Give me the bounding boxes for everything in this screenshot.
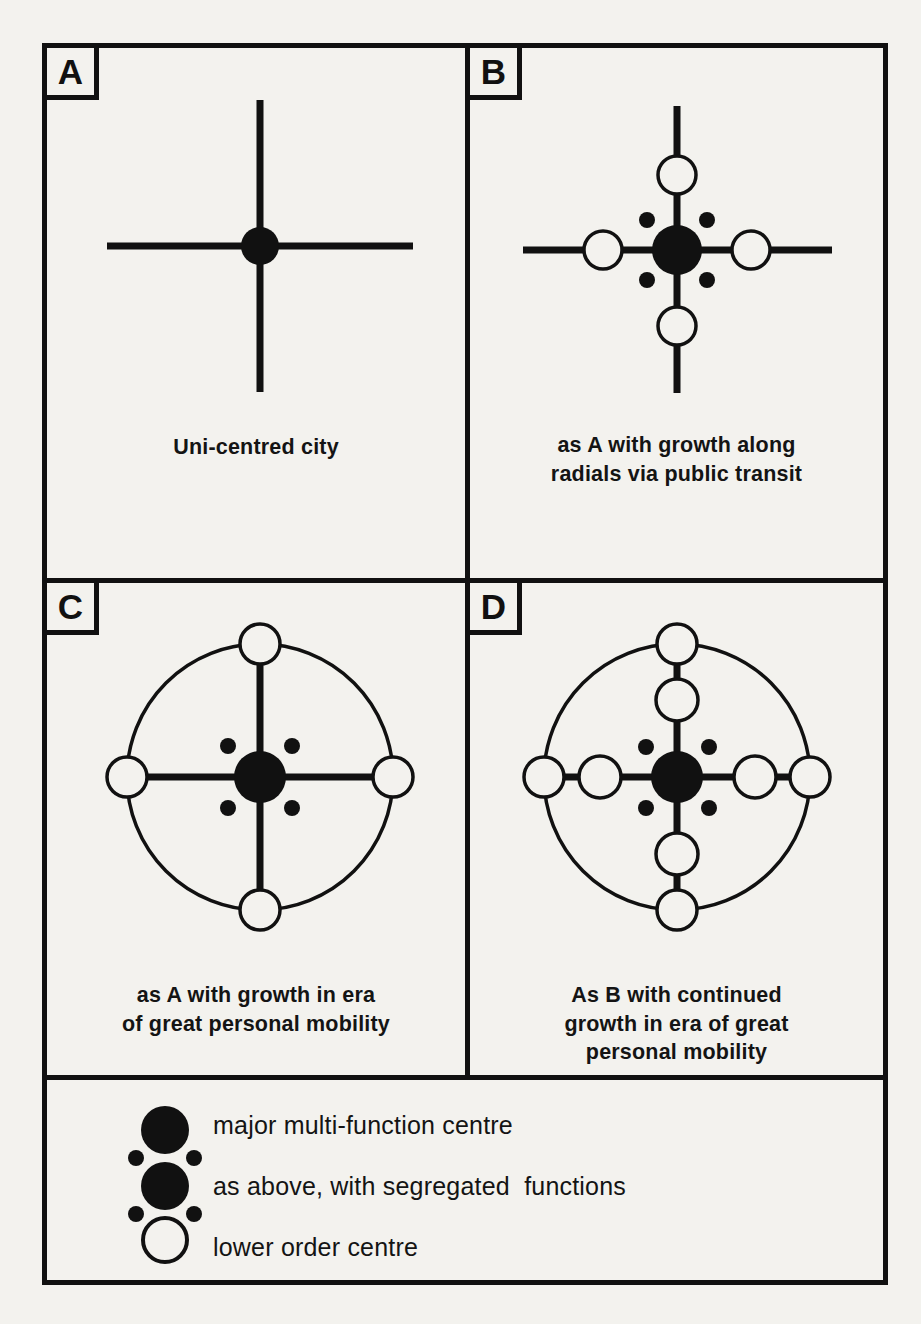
segregated-dot-nw (220, 738, 236, 754)
lower-order-centres-c (107, 624, 413, 930)
filled-large-circle-icon (117, 1094, 213, 1156)
panel-c-caption-line-1: as A with growth in era (47, 981, 465, 1010)
panel-b-caption-line-2: radials via public transit (470, 460, 883, 489)
lower-order-centre-west (584, 231, 622, 269)
segregated-function-dots-c (220, 738, 300, 816)
legend-item-lower-order-centre: lower order centre (117, 1216, 418, 1278)
lower-order-centre-inner-north (656, 679, 698, 721)
panel-b-letter: B (470, 48, 522, 100)
lower-order-centre-north (658, 156, 696, 194)
diagram-page: A Uni-centred city B (0, 0, 921, 1324)
lower-order-centre-inner-east (734, 756, 776, 798)
lower-order-centre-east (732, 231, 770, 269)
legend-label-major-centre: major multi-function centre (213, 1113, 513, 1138)
major-centre-d (651, 751, 703, 803)
lower-order-centre-ring-east (790, 757, 830, 797)
panel-d-caption-line-1: As B with continued (470, 981, 883, 1010)
radial-roads-b (523, 106, 832, 393)
panel-c-caption-line-2: of great personal mobility (47, 1010, 465, 1039)
open-circle-icon (117, 1216, 213, 1278)
legend-symbol-segregated-centre (117, 1155, 213, 1217)
segregated-dot-sw (638, 800, 654, 816)
panel-d-caption-line-3: personal mobility (470, 1038, 883, 1067)
lower-order-centre-ring-north (657, 624, 697, 664)
panel-b-caption: as A with growth along radials via publi… (470, 431, 883, 488)
panel-d-letter: D (470, 583, 522, 635)
lower-order-centre-ring-west (524, 757, 564, 797)
major-centre-b (652, 225, 702, 275)
lower-order-centre-east (373, 757, 413, 797)
panel-c-letter: C (47, 583, 99, 635)
lower-order-centre-ring-south (657, 890, 697, 930)
legend-symbol-lower-order-centre (117, 1216, 213, 1278)
lower-order-centre-west (107, 757, 147, 797)
legend-label-segregated-centre: as above, with segregated functions (213, 1174, 626, 1199)
panel-d-caption-line-2: growth in era of great (470, 1010, 883, 1039)
panel-d-caption: As B with continued growth in era of gre… (470, 981, 883, 1067)
major-centre-c (234, 751, 286, 803)
segregated-dot-ne (284, 738, 300, 754)
panel-c: C (47, 583, 465, 1075)
legend: major multi-function centre as above, wi… (47, 1080, 883, 1280)
legend-symbol-major-centre (117, 1094, 213, 1156)
panel-b-figure (470, 48, 883, 578)
radial-roads-d (523, 628, 830, 925)
panel-c-caption: as A with growth in era of great persona… (47, 981, 465, 1038)
segregated-dot-nw (638, 739, 654, 755)
major-centre-a (241, 227, 279, 265)
segregated-dot-ne (701, 739, 717, 755)
panel-a-figure (47, 48, 465, 578)
segregated-dot-sw (220, 800, 236, 816)
diagram-frame: A Uni-centred city B (42, 43, 888, 1285)
panel-b: B (470, 48, 883, 578)
lower-order-centre-inner-south (656, 833, 698, 875)
lower-order-centre-north (240, 624, 280, 664)
segregated-dot-se (284, 800, 300, 816)
lower-order-centre-south (240, 890, 280, 930)
panel-a-caption: Uni-centred city (47, 433, 465, 462)
lower-order-centre-inner-west (579, 756, 621, 798)
panel-d: D (470, 583, 883, 1075)
segregated-dot-sw (639, 272, 655, 288)
legend-item-major-centre: major multi-function centre (117, 1094, 513, 1156)
panel-a-letter: A (47, 48, 99, 100)
segregated-dot-nw (639, 212, 655, 228)
ring-road-d (544, 644, 810, 910)
legend-label-lower-order-centre: lower order centre (213, 1235, 418, 1260)
lower-order-centres-b (584, 156, 770, 345)
radial-roads-c (109, 630, 411, 923)
lower-order-centres-ring-d (524, 624, 830, 930)
radial-roads-a (107, 100, 413, 392)
legend-item-segregated-centre: as above, with segregated functions (117, 1155, 626, 1217)
segregated-dot-se (701, 800, 717, 816)
segregated-dot-ne (699, 212, 715, 228)
segregated-dot-se (699, 272, 715, 288)
panel-a-caption-line-1: Uni-centred city (47, 433, 465, 462)
lower-order-centres-radial-d (579, 679, 776, 875)
lower-order-centre-south (658, 307, 696, 345)
panel-a: A Uni-centred city (47, 48, 465, 578)
segregated-function-dots-b (639, 212, 715, 288)
segregated-function-dots-d (638, 739, 717, 816)
ring-road-c (127, 644, 393, 910)
panel-b-caption-line-1: as A with growth along (470, 431, 883, 460)
filled-large-circle-with-four-small-dots-icon (117, 1155, 213, 1217)
